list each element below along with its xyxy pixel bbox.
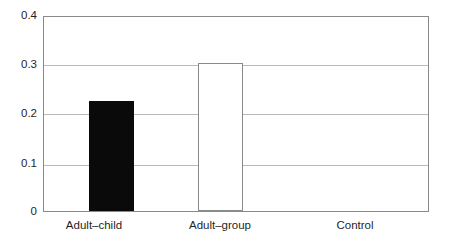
y-axis-tick-label-0.4: 0.4 [0, 10, 37, 22]
y-axis-tick-text: 0.1 [21, 157, 37, 169]
y-axis-tick-label-0: 0 [0, 206, 37, 218]
x-axis-tick-text: Adult–child [66, 219, 122, 231]
bar-chart: 0.4 0.3 0.2 0.1 0 Adult–child Adult–grou… [0, 0, 449, 245]
y-axis-tick-label-0.3: 0.3 [0, 59, 37, 71]
y-axis-tick-label-0.2: 0.2 [0, 108, 37, 120]
x-axis-label-control: Control [314, 219, 396, 231]
y-axis-tick-text: 0.3 [21, 58, 37, 70]
x-axis-label-adult-child: Adult–child [53, 219, 135, 231]
bar-adult-group [198, 63, 243, 211]
plot-area [43, 16, 429, 212]
x-axis-label-adult-group: Adult–group [179, 219, 261, 231]
x-axis-tick-text: Control [336, 219, 373, 231]
x-axis-tick-text: Adult–group [189, 219, 251, 231]
bar-adult-child [89, 101, 134, 211]
y-axis-tick-text: 0 [31, 205, 37, 217]
y-axis-tick-label-0.1: 0.1 [0, 158, 37, 170]
y-axis-tick-text: 0.4 [21, 9, 37, 21]
y-axis-tick-text: 0.2 [21, 107, 37, 119]
